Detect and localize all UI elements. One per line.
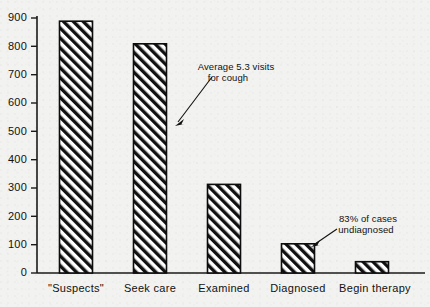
bar-chart: 0 100 200 300 400 500 600 700 800 900: [0, 0, 430, 307]
undiagnosed-annotation-line2: undiagnosed: [338, 224, 394, 235]
y-tick-label-0: 0: [21, 266, 27, 278]
x-tick-label-suspects: "Suspects": [48, 282, 104, 294]
bar-suspects: [60, 21, 93, 273]
bar-seek-care: [134, 44, 167, 273]
average-visits-annotation-line1: Average 5.3 visits: [198, 61, 275, 72]
undiagnosed-annotation-line1: 83% of cases: [339, 213, 397, 224]
x-tick-label-seek-care: Seek care: [124, 282, 176, 294]
bar-diagnosed: [282, 244, 315, 273]
y-tick-label-700: 700: [8, 68, 27, 80]
y-tick-label-100: 100: [8, 238, 27, 250]
y-tick-label-600: 600: [8, 96, 27, 108]
y-tick-label-400: 400: [8, 153, 27, 165]
chart-canvas: 0 100 200 300 400 500 600 700 800 900: [0, 0, 430, 307]
x-tick-label-examined: Examined: [198, 282, 249, 294]
bar-begin-therapy: [356, 262, 389, 273]
y-tick-label-500: 500: [8, 125, 27, 137]
y-tick-label-200: 200: [8, 210, 27, 222]
x-tick-label-begin-therapy: Begin therapy: [339, 282, 411, 294]
average-visits-annotation-line2: for cough: [208, 72, 249, 83]
x-tick-label-diagnosed: Diagnosed: [270, 282, 325, 294]
y-tick-label-900: 900: [8, 11, 27, 23]
bar-examined: [208, 184, 241, 273]
y-tick-label-800: 800: [8, 40, 27, 52]
x-axis-tick-labels: "Suspects" Seek care Examined Diagnosed …: [48, 282, 411, 294]
y-tick-label-300: 300: [8, 181, 27, 193]
